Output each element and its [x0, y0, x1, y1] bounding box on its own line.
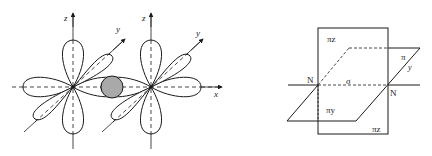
pi-z-top-label: πz [327, 34, 336, 44]
pi-z-bottom-label: πz [372, 124, 381, 134]
pi-label: π [401, 52, 406, 62]
left-z-label: z [63, 13, 68, 23]
right-figure: πz π y σ N N πy πz [287, 28, 420, 134]
left-figure: z y z y x [12, 13, 222, 149]
x-label: x [213, 89, 218, 99]
y-label: y [407, 63, 412, 72]
n-right-label: N [390, 88, 397, 98]
right-z-label: z [141, 13, 146, 23]
right-y-label: y [195, 28, 200, 38]
figure-canvas: z y z y x πz [0, 0, 432, 156]
overlap-orbital [101, 76, 123, 98]
sigma-label: σ [346, 76, 351, 86]
left-y-label: y [115, 24, 120, 34]
n-left-label: N [307, 75, 314, 85]
sigma-bond-axis [288, 85, 420, 121]
pi-y-label: πy [326, 105, 336, 115]
